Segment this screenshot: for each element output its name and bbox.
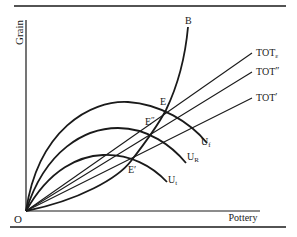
point-label-e: E (160, 96, 166, 107)
tot-line-double-prime (26, 72, 252, 211)
svg-text:UR: UR (187, 151, 199, 164)
indifference-label-ur: UR (187, 151, 199, 164)
svg-text:TOTε: TOTε (256, 47, 278, 60)
tot-label-prime: TOT′ (256, 91, 277, 103)
svg-text:TOT′: TOT′ (256, 91, 277, 103)
offer-curve-label: B (185, 15, 192, 26)
indifference-label-ut: Ut (168, 174, 177, 187)
tot-label-double-prime: TOT″ (256, 65, 279, 77)
tot-label-epsilon: TOTε (256, 47, 278, 60)
indifference-label-uf: Uf (201, 136, 211, 149)
point-label-e-double-prime: E″ (145, 115, 155, 127)
x-axis-label: Pottery (229, 212, 258, 223)
svg-text:Uf: Uf (201, 136, 211, 149)
origin-label: O (14, 213, 22, 225)
tot-line-prime (26, 98, 252, 211)
svg-text:E′: E′ (128, 164, 136, 175)
point-label-e-prime: E′ (128, 164, 136, 175)
svg-text:Ut: Ut (168, 174, 177, 187)
svg-text:E: E (160, 96, 166, 107)
trade-diagram: Grain O Pottery B TOTε TOT″ TOT′ Uf (0, 0, 297, 237)
svg-text:TOT″: TOT″ (256, 65, 279, 77)
y-axis-label: Grain (13, 19, 25, 45)
offer-curve-b (26, 27, 188, 211)
indifference-curve-ut (26, 155, 167, 211)
svg-text:E″: E″ (145, 115, 155, 127)
